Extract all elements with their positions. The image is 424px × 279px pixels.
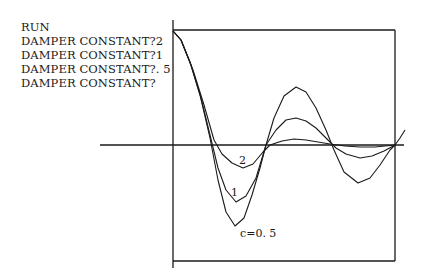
curve-c-1 bbox=[173, 31, 395, 202]
label-c-2: 2 bbox=[239, 154, 246, 167]
curve-c-2 bbox=[173, 31, 395, 168]
damped-oscillation-plot: 2 1 c=0. 5 bbox=[0, 0, 424, 279]
label-c-0.5: c=0. 5 bbox=[240, 227, 276, 240]
curve-c-0.5 bbox=[173, 31, 405, 226]
label-c-1: 1 bbox=[231, 186, 238, 199]
